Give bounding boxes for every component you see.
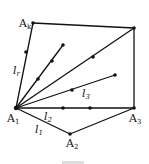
edge-a2-a3 <box>70 108 134 134</box>
polygon-edges <box>16 23 134 134</box>
edge-top-ak <box>33 23 134 28</box>
label-l1: l1 <box>35 123 43 137</box>
edge-a1-a2 <box>16 108 70 134</box>
points <box>14 21 136 136</box>
label-lr: lr <box>13 64 21 78</box>
label-a3: A3 <box>128 112 141 126</box>
edge-ak-a1 <box>16 23 33 108</box>
label-a2: A2 <box>65 137 78 151</box>
polygon-diagram: Ak A1 A3 A2 lr l3 l2 l1 <box>0 0 149 164</box>
ray-short <box>16 45 63 108</box>
label-l3: l3 <box>82 87 91 101</box>
label-l2: l2 <box>44 110 53 124</box>
diagonal-a1-top <box>16 28 134 108</box>
label-a1: A1 <box>6 112 19 126</box>
label-ak: Ak <box>18 17 32 31</box>
caption-remnant <box>62 161 84 164</box>
ray-l3 <box>16 75 115 108</box>
